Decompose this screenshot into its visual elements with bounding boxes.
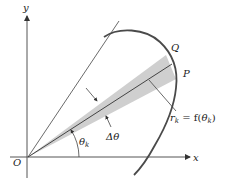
center-ray bbox=[28, 64, 172, 157]
theta-label: θk bbox=[79, 136, 89, 149]
shaded-wedge bbox=[28, 55, 176, 157]
radius-label: rk = f(θk) bbox=[170, 112, 216, 125]
theta-arc bbox=[71, 130, 79, 157]
polar-area-diagram: y x O Q P rk = f(θk) θk Δθ bbox=[0, 0, 229, 186]
origin-label: O bbox=[13, 157, 21, 168]
point-p-label: P bbox=[182, 68, 190, 79]
point-q-label: Q bbox=[171, 42, 179, 53]
delta-arrow-top bbox=[86, 88, 97, 101]
y-axis-label: y bbox=[22, 2, 29, 13]
delta-arrow-bottom bbox=[106, 116, 111, 127]
x-axis-label: x bbox=[193, 152, 199, 163]
delta-theta-label: Δθ bbox=[105, 131, 119, 142]
